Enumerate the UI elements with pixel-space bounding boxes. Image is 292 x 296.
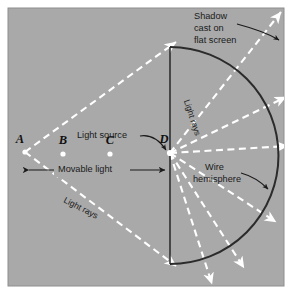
point-label-A: A	[15, 132, 24, 146]
point-dot-C	[107, 151, 112, 156]
movable-light-label: Movable light	[58, 164, 113, 174]
shadow-label-line1: Shadow	[194, 11, 228, 21]
point-dot-D	[167, 150, 173, 156]
point-dot-A	[22, 149, 27, 154]
point-label-D: D	[158, 132, 168, 146]
shadow-label-line2: cast on	[194, 23, 224, 33]
light-source-label: Light source	[77, 130, 127, 140]
hemisphere-shadow-diagram: A B C D Shadow cast on flat screen Light…	[0, 0, 292, 296]
point-label-B: B	[58, 133, 67, 147]
figure-root: A B C D Shadow cast on flat screen Light…	[0, 0, 292, 296]
wire-hemisphere-label-line1: Wire	[205, 162, 224, 172]
point-dot-B	[60, 151, 65, 156]
wire-hemisphere-label-line2: hemisphere	[193, 174, 241, 184]
shadow-label-line3: flat screen	[194, 35, 236, 45]
